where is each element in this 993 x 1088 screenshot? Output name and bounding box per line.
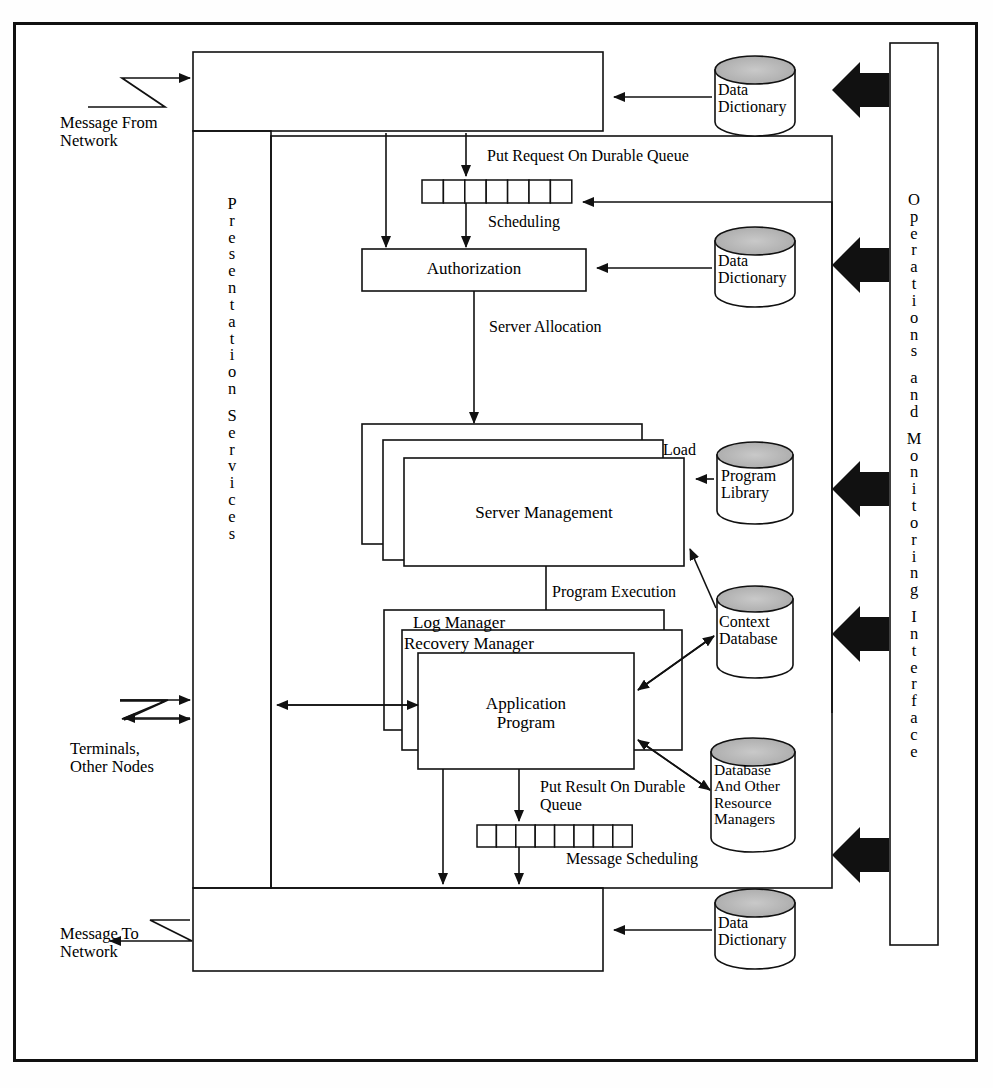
data-dictionary-bottom-label: DataDictionary <box>718 915 796 949</box>
application-program-label: ApplicationProgram <box>418 694 634 732</box>
vertical-letter: s <box>210 526 254 543</box>
server-management-label: Server Management <box>404 503 684 522</box>
operations-interface-label: Operations and Monitoring Interface <box>896 192 932 761</box>
label-put-result-on-durable-queue: Put Result On DurableQueue <box>540 778 685 814</box>
server-management-stack <box>362 424 684 566</box>
block-arrow-ops-1 <box>832 62 889 118</box>
result-queue <box>477 825 632 847</box>
label-server-allocation: Server Allocation <box>489 318 601 336</box>
request-queue <box>422 180 572 203</box>
authorization-label: Authorization <box>362 259 586 278</box>
program-library-label: ProgramLibrary <box>721 468 795 502</box>
label-terminals-other-nodes: Terminals,Other Nodes <box>70 740 154 777</box>
vertical-letter: e <box>896 744 932 761</box>
log-manager-label: Log Manager <box>413 613 505 632</box>
label-message-scheduling: Message Scheduling <box>566 850 698 868</box>
label-message-from-network: Message FromNetwork <box>60 114 158 151</box>
external-connector-message-from-network <box>88 78 190 107</box>
block-arrow-ops-3 <box>832 461 889 517</box>
context-database-label: ContextDatabase <box>719 614 795 648</box>
label-program-execution: Program Execution <box>552 583 676 601</box>
label-put-request-on-durable-queue: Put Request On Durable Queue <box>487 147 689 165</box>
data-dictionary-top-label: DataDictionary <box>718 82 796 116</box>
label-load: Load <box>663 441 696 459</box>
data-dictionary-mid-label: DataDictionary <box>718 253 796 287</box>
arrow-context-db-to-server-management <box>690 549 716 608</box>
vertical-letter: t <box>896 643 932 660</box>
block-arrow-ops-2 <box>832 237 889 293</box>
presentation-services-label: Presentation Services <box>210 196 254 543</box>
label-scheduling: Scheduling <box>488 213 560 231</box>
resource-managers-label: DatabaseAnd OtherResourceManagers <box>714 762 798 828</box>
label-message-to-network: Message ToNetwork <box>60 925 139 962</box>
recovery-manager-label: Recovery Manager <box>404 634 534 653</box>
block-arrow-ops-4 <box>832 606 889 662</box>
diagram-page: Message FromNetwork Terminals,Other Node… <box>0 0 993 1088</box>
block-arrow-ops-5 <box>832 827 889 883</box>
